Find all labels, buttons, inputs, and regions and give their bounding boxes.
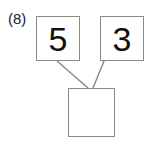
number-left: 5 (49, 22, 68, 56)
number-right: 3 (113, 22, 132, 56)
number-box-left: 5 (36, 16, 80, 61)
number-box-right: 3 (100, 16, 144, 61)
connector-left (57, 61, 88, 88)
answer-box[interactable] (68, 88, 115, 137)
connector-right (93, 61, 104, 88)
